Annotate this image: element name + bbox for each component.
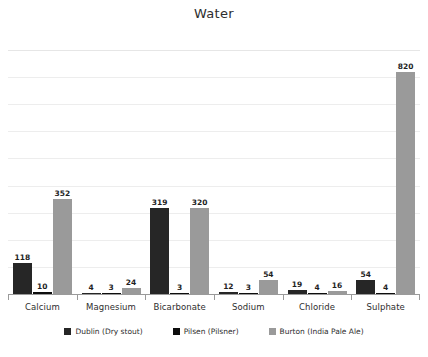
bar-value: 54 xyxy=(263,271,273,279)
legend-label: Dublin (Dry stout) xyxy=(75,327,142,336)
legend-item-pilsen[interactable]: Pilsen (Pilsner) xyxy=(173,327,239,336)
axis-tick xyxy=(419,295,420,300)
category-text: Sulphate xyxy=(366,302,405,312)
bar-value: 4 xyxy=(88,284,93,292)
bar-burton[interactable] xyxy=(53,199,72,295)
category-label-chloride: Chloride xyxy=(283,295,352,317)
bar-value: 3 xyxy=(246,284,251,292)
bar-value: 19 xyxy=(292,281,302,289)
category-text: Calcium xyxy=(25,302,60,312)
bar-wrap-dublin: 19 xyxy=(288,50,307,295)
bar-value: 118 xyxy=(15,254,31,262)
bar-groups: 118 10 352 4 3 24 xyxy=(8,50,420,295)
axis-tick xyxy=(214,295,215,300)
bar-chart: Water 118 10 352 xyxy=(0,0,428,357)
legend-label: Pilsen (Pilsner) xyxy=(184,327,239,336)
bar-wrap-burton: 16 xyxy=(328,50,347,295)
bar-wrap-dublin: 12 xyxy=(219,50,238,295)
bar-wrap-dublin: 4 xyxy=(82,50,101,295)
bar-value: 12 xyxy=(223,283,233,291)
bar-dublin[interactable] xyxy=(150,208,169,295)
legend-swatch-icon xyxy=(173,328,180,335)
category-label-magnesium: Magnesium xyxy=(77,295,146,317)
bar-wrap-burton: 54 xyxy=(259,50,278,295)
bar-wrap-dublin: 54 xyxy=(356,50,375,295)
category-text: Bicarbonate xyxy=(153,302,205,312)
bar-dublin[interactable] xyxy=(13,263,32,295)
bar-value: 319 xyxy=(152,199,168,207)
legend-swatch-icon xyxy=(64,328,71,335)
bar-value: 24 xyxy=(126,279,136,287)
bar-value: 16 xyxy=(332,282,342,290)
bar-wrap-pilsen: 10 xyxy=(33,50,52,295)
bar-burton[interactable] xyxy=(259,280,278,295)
bar-wrap-burton: 820 xyxy=(396,50,415,295)
axis-tick xyxy=(8,295,9,300)
category-label-sulphate: Sulphate xyxy=(351,295,420,317)
bar-value: 820 xyxy=(398,63,414,71)
bar-value: 3 xyxy=(108,284,113,292)
bar-wrap-pilsen: 4 xyxy=(376,50,395,295)
category-label-sodium: Sodium xyxy=(214,295,283,317)
bar-group-chloride: 19 4 16 xyxy=(283,50,352,295)
bar-value: 352 xyxy=(55,190,71,198)
axis-tick xyxy=(351,295,352,300)
category-text: Magnesium xyxy=(86,302,136,312)
legend-item-burton[interactable]: Burton (India Pale Ale) xyxy=(269,327,364,336)
bar-value: 320 xyxy=(192,199,208,207)
bar-wrap-burton: 24 xyxy=(122,50,141,295)
bar-burton[interactable] xyxy=(396,72,415,295)
bar-wrap-burton: 320 xyxy=(190,50,209,295)
category-label-bicarbonate: Bicarbonate xyxy=(145,295,214,317)
bar-dublin[interactable] xyxy=(356,280,375,295)
legend-item-dublin[interactable]: Dublin (Dry stout) xyxy=(64,327,142,336)
axis-tick xyxy=(145,295,146,300)
legend-swatch-icon xyxy=(269,328,276,335)
axis-tick xyxy=(283,295,284,300)
bar-wrap-dublin: 319 xyxy=(150,50,169,295)
axis-tick xyxy=(77,295,78,300)
bar-value: 10 xyxy=(37,283,47,291)
bar-wrap-dublin: 118 xyxy=(13,50,32,295)
legend-label: Burton (India Pale Ale) xyxy=(280,327,364,336)
category-text: Sodium xyxy=(232,302,265,312)
bar-wrap-pilsen: 3 xyxy=(170,50,189,295)
bar-value: 54 xyxy=(360,271,370,279)
bar-group-sodium: 12 3 54 xyxy=(214,50,283,295)
bar-wrap-pilsen: 3 xyxy=(102,50,121,295)
chart-title: Water xyxy=(0,6,428,21)
category-text: Chloride xyxy=(299,302,335,312)
chart-legend: Dublin (Dry stout) Pilsen (Pilsner) Burt… xyxy=(0,327,428,336)
bar-value: 4 xyxy=(314,284,319,292)
category-label-calcium: Calcium xyxy=(8,295,77,317)
bar-burton[interactable] xyxy=(190,208,209,295)
bar-wrap-pilsen: 3 xyxy=(239,50,258,295)
bar-wrap-pilsen: 4 xyxy=(308,50,327,295)
bar-group-magnesium: 4 3 24 xyxy=(77,50,146,295)
bar-group-bicarbonate: 319 3 320 xyxy=(145,50,214,295)
bar-group-sulphate: 54 4 820 xyxy=(351,50,420,295)
bar-value: 4 xyxy=(383,284,388,292)
bar-value: 3 xyxy=(177,284,182,292)
bar-wrap-burton: 352 xyxy=(53,50,72,295)
bar-group-calcium: 118 10 352 xyxy=(8,50,77,295)
category-axis: Calcium Magnesium Bicarbonate Sodium Chl… xyxy=(8,295,420,317)
